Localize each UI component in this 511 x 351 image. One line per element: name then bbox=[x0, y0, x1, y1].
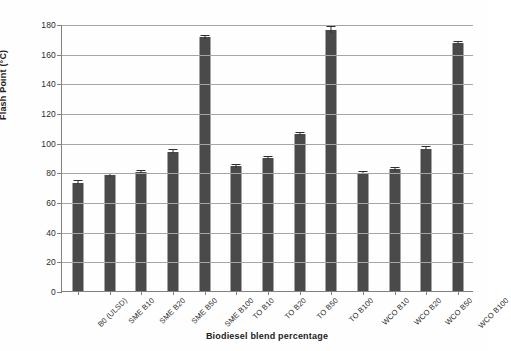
error-bar-cap bbox=[263, 156, 272, 157]
y-axis-tick bbox=[57, 233, 62, 234]
bar-slot bbox=[157, 25, 189, 291]
error-bar-cap bbox=[73, 180, 82, 181]
y-axis-tick-label: 100 bbox=[41, 139, 56, 149]
bar-slot bbox=[125, 25, 157, 291]
error-bar-cap bbox=[137, 170, 146, 171]
x-axis-tick-labels: B0 (ULSD)SME B10SME B20SME B50SME B100TO… bbox=[61, 292, 473, 332]
error-bar-cap bbox=[232, 164, 241, 165]
gridline bbox=[62, 25, 473, 26]
y-axis-tick-label: 140 bbox=[41, 79, 56, 89]
error-bar-cap bbox=[168, 149, 177, 150]
error-bar-cap bbox=[422, 146, 431, 147]
y-axis-tick-label: 60 bbox=[46, 198, 56, 208]
bar-slot bbox=[379, 25, 411, 291]
x-axis-tick-label: SME B10 bbox=[126, 296, 156, 326]
bar-slot bbox=[189, 25, 221, 291]
bar[interactable] bbox=[453, 43, 464, 291]
bar[interactable] bbox=[294, 134, 305, 291]
error-bar-cap bbox=[200, 35, 209, 36]
x-axis-title: Biodiesel blend percentage bbox=[61, 331, 473, 341]
x-axis-tick-label: SME B100 bbox=[222, 296, 255, 329]
y-axis-tick-label: 160 bbox=[41, 50, 56, 60]
bar-slot bbox=[220, 25, 252, 291]
error-bar bbox=[267, 157, 268, 159]
bar[interactable] bbox=[199, 37, 210, 291]
bar[interactable] bbox=[421, 149, 432, 291]
y-axis-tick-label: 180 bbox=[41, 20, 56, 30]
y-axis-tick bbox=[57, 173, 62, 174]
error-bar-cap bbox=[390, 167, 399, 168]
bar-slot bbox=[94, 25, 126, 291]
bar-slot bbox=[62, 25, 94, 291]
bar-series bbox=[62, 25, 473, 291]
y-axis-tick bbox=[57, 144, 62, 145]
bar-slot bbox=[284, 25, 316, 291]
bar[interactable] bbox=[231, 166, 242, 291]
gridline bbox=[62, 84, 473, 85]
x-axis-tick-label: SME B50 bbox=[190, 296, 220, 326]
bar-slot bbox=[347, 25, 379, 291]
bar[interactable] bbox=[262, 158, 273, 291]
bar-slot bbox=[411, 25, 443, 291]
gridline bbox=[62, 233, 473, 234]
plot-area bbox=[61, 25, 473, 292]
y-axis-tick-label: 20 bbox=[46, 257, 56, 267]
y-axis-tick bbox=[57, 55, 62, 56]
gridline bbox=[62, 203, 473, 204]
error-bar-cap bbox=[295, 132, 304, 133]
y-axis-tick-label: 0 bbox=[51, 287, 56, 297]
error-bar bbox=[204, 36, 205, 38]
gridline bbox=[62, 262, 473, 263]
y-axis-title: Flash Point (°C) bbox=[0, 50, 8, 120]
y-axis-tick-labels: 020406080100120140160180 bbox=[28, 25, 56, 292]
error-bar bbox=[77, 181, 78, 184]
gridline bbox=[62, 144, 473, 145]
gridline bbox=[62, 55, 473, 56]
x-axis-tick-label: TO B20 bbox=[283, 296, 308, 321]
gridline bbox=[62, 173, 473, 174]
error-bar bbox=[172, 150, 173, 152]
y-axis-tick-label: 80 bbox=[46, 168, 56, 178]
error-bar bbox=[236, 165, 237, 167]
error-bar bbox=[458, 42, 459, 44]
bar[interactable] bbox=[389, 169, 400, 291]
gridline bbox=[62, 114, 473, 115]
bar-slot bbox=[316, 25, 348, 291]
error-bar-cap bbox=[454, 41, 463, 42]
y-axis-tick-label: 40 bbox=[46, 228, 56, 238]
y-axis-tick bbox=[57, 114, 62, 115]
x-axis-tick-label: TO B50 bbox=[314, 296, 339, 321]
x-axis-tick-label: SME B20 bbox=[158, 296, 188, 326]
x-axis-tick-label: TO B100 bbox=[347, 296, 375, 324]
x-axis-tick-label: WCO B50 bbox=[444, 296, 475, 327]
y-axis-tick-label: 120 bbox=[41, 109, 56, 119]
x-axis-tick-label: WCO B10 bbox=[380, 296, 411, 327]
y-axis-tick bbox=[57, 84, 62, 85]
error-bar-cap bbox=[359, 171, 368, 172]
error-bar bbox=[394, 168, 395, 170]
bar-slot bbox=[252, 25, 284, 291]
error-bar bbox=[426, 147, 427, 149]
x-axis-tick-label: WCO B100 bbox=[477, 296, 511, 330]
bar[interactable] bbox=[72, 183, 83, 291]
bar-slot bbox=[442, 25, 474, 291]
x-axis-tick-label: WCO B20 bbox=[412, 296, 443, 327]
x-axis-tick-label: TO B10 bbox=[251, 296, 276, 321]
error-bar bbox=[331, 27, 332, 33]
error-bar bbox=[299, 133, 300, 135]
x-axis-tick-label: B0 (ULSD) bbox=[96, 296, 129, 329]
y-axis-tick bbox=[57, 262, 62, 263]
bar[interactable] bbox=[326, 30, 337, 291]
y-axis-tick bbox=[57, 203, 62, 204]
y-axis-tick bbox=[57, 25, 62, 26]
error-bar-cap bbox=[327, 26, 336, 27]
